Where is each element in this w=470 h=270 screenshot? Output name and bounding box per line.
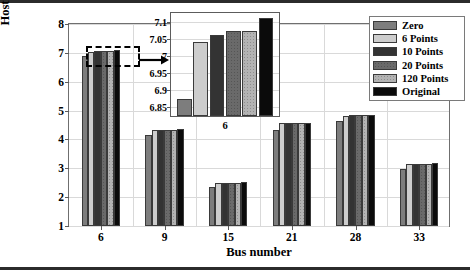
gridline bbox=[69, 139, 449, 140]
bar-6-original bbox=[114, 50, 120, 226]
inset-bar-zero bbox=[177, 99, 192, 116]
legend-item-6-points[interactable]: 6 Points bbox=[373, 32, 461, 45]
inset-x-axis-label: 6 bbox=[170, 120, 280, 131]
inset-y-tick-mark bbox=[167, 107, 171, 108]
y-tick-mark bbox=[65, 139, 69, 140]
legend-label: 120 Points bbox=[402, 73, 448, 84]
bar-33-original bbox=[432, 163, 438, 226]
x-tick-mark bbox=[165, 226, 166, 230]
inset-bar-6-points bbox=[193, 42, 208, 116]
legend-item-zero[interactable]: Zero bbox=[373, 19, 461, 32]
zoom-callout-box bbox=[86, 46, 140, 67]
y-tick-label: 7 bbox=[34, 47, 64, 59]
x-tick-label: 21 bbox=[286, 231, 298, 243]
y-tick-label: 2 bbox=[34, 191, 64, 203]
x-tick-mark bbox=[228, 226, 229, 230]
y-tick-mark bbox=[65, 24, 69, 25]
inset-y-tick-label: 6.85 bbox=[133, 102, 167, 113]
gridline bbox=[69, 226, 449, 227]
y-tick-label: 6 bbox=[34, 76, 64, 88]
legend-swatch-icon bbox=[373, 34, 397, 43]
legend-swatch-icon bbox=[373, 87, 397, 96]
legend-label: 6 Points bbox=[402, 33, 438, 44]
y-tick-mark bbox=[65, 226, 69, 227]
inset-y-tick-label: 6.95 bbox=[133, 68, 167, 79]
y-tick-mark bbox=[65, 53, 69, 54]
y-tick-mark bbox=[65, 168, 69, 169]
inset-bar-10-points bbox=[210, 35, 225, 116]
gridline bbox=[69, 197, 449, 198]
x-tick-label: 33 bbox=[413, 231, 425, 243]
y-tick-label: 8 bbox=[34, 18, 64, 30]
page-edge-top bbox=[0, 0, 470, 3]
legend-label: 20 Points bbox=[402, 60, 443, 71]
y-tick-mark bbox=[65, 82, 69, 83]
inset-y-tick-label: 7 bbox=[133, 50, 167, 61]
bar-9-original bbox=[177, 129, 183, 226]
inset-plot-area: 6.856.96.9577.057.1 bbox=[170, 12, 280, 117]
inset-y-tick-mark bbox=[167, 39, 171, 40]
legend-swatch-icon bbox=[373, 74, 397, 83]
y-tick-label: 5 bbox=[34, 105, 64, 117]
x-tick-mark bbox=[356, 226, 357, 230]
x-tick-label: 15 bbox=[222, 231, 234, 243]
x-tick-label: 28 bbox=[350, 231, 362, 243]
legend-swatch-icon bbox=[373, 47, 397, 56]
x-tick-mark bbox=[101, 226, 102, 230]
inset-y-tick-mark bbox=[167, 56, 171, 57]
inset-y-tick-mark bbox=[167, 90, 171, 91]
y-tick-mark bbox=[65, 111, 69, 112]
legend-label: Original bbox=[402, 86, 440, 97]
inset-y-tick-label: 7.05 bbox=[133, 33, 167, 44]
legend-label: Zero bbox=[402, 20, 423, 31]
inset-bar-120-points bbox=[242, 31, 257, 116]
legend-item-10-points[interactable]: 10 Points bbox=[373, 45, 461, 58]
legend-item-120-points[interactable]: 120 Points bbox=[373, 72, 461, 85]
y-axis-label: Hosting capacity (MW) bbox=[0, 0, 13, 38]
y-tick-label: 3 bbox=[34, 162, 64, 174]
legend-item-original[interactable]: Original bbox=[373, 85, 461, 98]
legend-label: 10 Points bbox=[402, 46, 443, 57]
legend-swatch-icon bbox=[373, 21, 397, 30]
bar-15-original bbox=[241, 182, 247, 226]
x-tick-label: 6 bbox=[98, 231, 104, 243]
x-axis-label: Bus number bbox=[68, 245, 450, 260]
legend-item-20-points[interactable]: 20 Points bbox=[373, 59, 461, 72]
bar-28-original bbox=[368, 115, 374, 226]
legend: Zero6 Points10 Points20 Points120 Points… bbox=[369, 16, 465, 101]
inset-bar-original bbox=[259, 18, 274, 116]
x-tick-label: 9 bbox=[162, 231, 168, 243]
x-tick-mark bbox=[419, 226, 420, 230]
legend-swatch-icon bbox=[373, 61, 397, 70]
inset-y-tick-label: 7.1 bbox=[133, 16, 167, 27]
figure-canvas: Hosting capacity (MW) 12345678 691521283… bbox=[0, 0, 470, 270]
y-tick-label: 4 bbox=[34, 133, 64, 145]
y-tick-mark bbox=[65, 197, 69, 198]
y-tick-label: 1 bbox=[34, 220, 64, 232]
bar-21-original bbox=[305, 123, 311, 226]
inset-y-tick-label: 6.9 bbox=[133, 85, 167, 96]
vertical-gridline bbox=[324, 24, 325, 226]
x-tick-mark bbox=[292, 226, 293, 230]
inset-bar-20-points bbox=[226, 31, 241, 116]
inset-y-tick-mark bbox=[167, 22, 171, 23]
inset-y-tick-mark bbox=[167, 73, 171, 74]
gridline bbox=[69, 168, 449, 169]
